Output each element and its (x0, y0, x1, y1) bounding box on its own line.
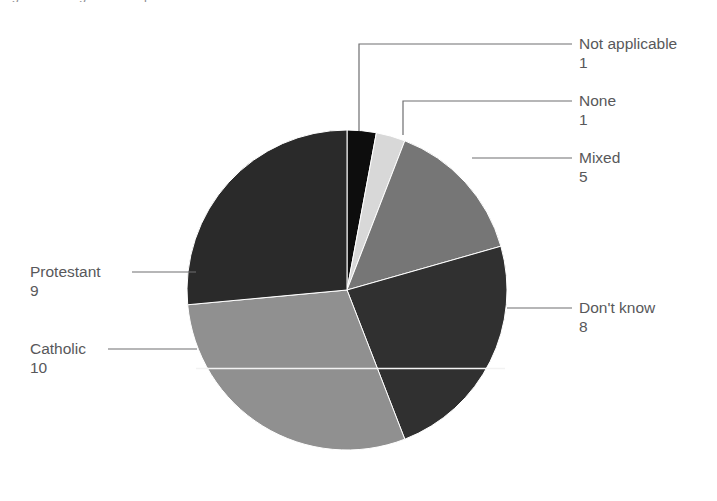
slice-label-not-applicable-value: 1 (579, 53, 677, 72)
leader-line-not-applicable (359, 44, 572, 131)
slice-label-catholic-name: Catholic (30, 340, 86, 357)
slice-label-protestant: Protestant 9 (30, 262, 101, 300)
slice-label-catholic: Catholic 10 (30, 339, 86, 377)
slice-label-dont-know: Don't know 8 (579, 298, 655, 336)
slice-label-none: None 1 (579, 91, 616, 129)
pie-slices (187, 130, 507, 450)
slice-label-mixed: Mixed 5 (579, 148, 620, 186)
slice-label-none-value: 1 (579, 110, 616, 129)
slice-label-protestant-name: Protestant (30, 263, 101, 280)
pie-chart-canvas (0, 0, 717, 501)
slice-label-mixed-value: 5 (579, 167, 620, 186)
slice-label-dont-know-name: Don't know (579, 299, 655, 316)
slice-label-dont-know-value: 8 (579, 317, 655, 336)
slice-label-none-name: None (579, 92, 616, 109)
pie-slice-protestant[interactable] (187, 130, 347, 305)
slice-label-not-applicable-name: Not applicable (579, 35, 677, 52)
slice-label-mixed-name: Mixed (579, 149, 620, 166)
leader-line-none (403, 101, 572, 135)
slice-label-protestant-value: 9 (30, 281, 101, 300)
slice-label-catholic-value: 10 (30, 358, 86, 377)
slice-label-not-applicable: Not applicable 1 (579, 34, 677, 72)
pie-chart-figure: Figure 6 Religion of respondents Not app… (0, 0, 717, 501)
